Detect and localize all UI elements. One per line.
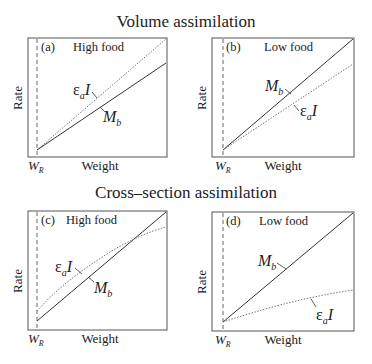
- panel-tag: (d): [226, 214, 241, 228]
- panel-a: (a) High food εaI Mb Rate Weight WR: [10, 38, 167, 175]
- row-title-volume: Volume assimilation: [117, 12, 256, 31]
- maintenance-line: [37, 63, 166, 150]
- leader-line: [75, 268, 82, 274]
- ingestion-label: εaI: [73, 81, 91, 101]
- wr-label: WR: [28, 331, 44, 348]
- x-axis-label: Weight: [81, 331, 119, 346]
- panel-tag: (c): [41, 213, 55, 227]
- maintenance-label: Mb: [102, 108, 121, 128]
- y-axis-label: Rate: [10, 269, 25, 293]
- ingestion-label: εaI: [316, 306, 334, 326]
- x-axis-label: Weight: [81, 158, 119, 173]
- x-axis-label: Weight: [264, 158, 302, 173]
- ingestion-label: εaI: [300, 102, 318, 122]
- maintenance-line: [223, 213, 353, 322]
- ingestion-line: [223, 64, 353, 150]
- y-axis-label: Rate: [194, 270, 209, 294]
- maintenance-label: Mb: [93, 279, 112, 299]
- food-condition: High food: [73, 40, 125, 54]
- ingestion-label: εaI: [55, 258, 73, 278]
- y-axis-label: Rate: [10, 86, 25, 110]
- food-condition: Low food: [264, 40, 314, 54]
- ingestion-line: [37, 39, 166, 150]
- panel-c: (c) High food εaI Mb Rate Weight WR: [10, 211, 167, 348]
- y-axis-label: Rate: [194, 86, 209, 110]
- wr-label: WR: [215, 332, 231, 349]
- food-condition: Low food: [259, 214, 309, 228]
- panel-tag: (a): [41, 40, 55, 54]
- leader-line: [311, 299, 316, 307]
- panel-d: (d) Low food Mb εaI Rate Weight WR: [194, 212, 354, 349]
- leader-line: [277, 263, 286, 269]
- maintenance-label: Mb: [257, 252, 276, 272]
- maintenance-label: Mb: [264, 77, 283, 97]
- leader-line: [92, 92, 97, 98]
- wr-label: WR: [215, 158, 231, 175]
- panel-b: (b) Low food Mb εaI Rate Weight WR: [194, 38, 354, 175]
- figure-canvas: Volume assimilation Cross–section assimi…: [0, 0, 372, 364]
- wr-label: WR: [28, 158, 44, 175]
- x-axis-label: Weight: [264, 332, 302, 347]
- food-condition: High food: [66, 213, 118, 227]
- row-title-cross-section: Cross–section assimilation: [95, 183, 277, 202]
- panel-tag: (b): [226, 40, 241, 54]
- leader-line: [285, 89, 291, 94]
- maintenance-line: [223, 39, 353, 150]
- leader-line: [294, 105, 299, 111]
